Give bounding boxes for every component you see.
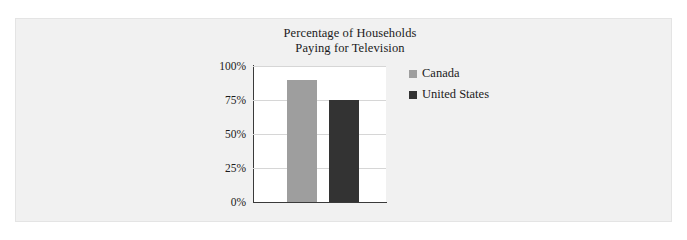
chart-figure: Percentage of Households Paying for Tele… [0,0,687,240]
chart-legend: CanadaUnited States [409,64,579,106]
legend-item: Canada [409,64,579,83]
y-axis-tick-label: 0% [200,196,246,208]
y-axis-tick-label: 50% [200,128,246,140]
bar-group [253,66,386,202]
legend-label: Canada [422,66,459,81]
y-axis-tick-label: 75% [200,94,246,106]
legend-swatch-icon [409,70,417,78]
legend-label: United States [422,87,489,102]
bar-united-states [329,100,359,202]
y-axis-tick-labels: 0%25%50%75%100% [198,0,246,240]
bar-canada [287,80,317,202]
y-axis-tick-label: 100% [200,60,246,72]
y-axis-tick-label: 25% [200,162,246,174]
legend-item: United States [409,85,579,104]
legend-swatch-icon [409,91,417,99]
